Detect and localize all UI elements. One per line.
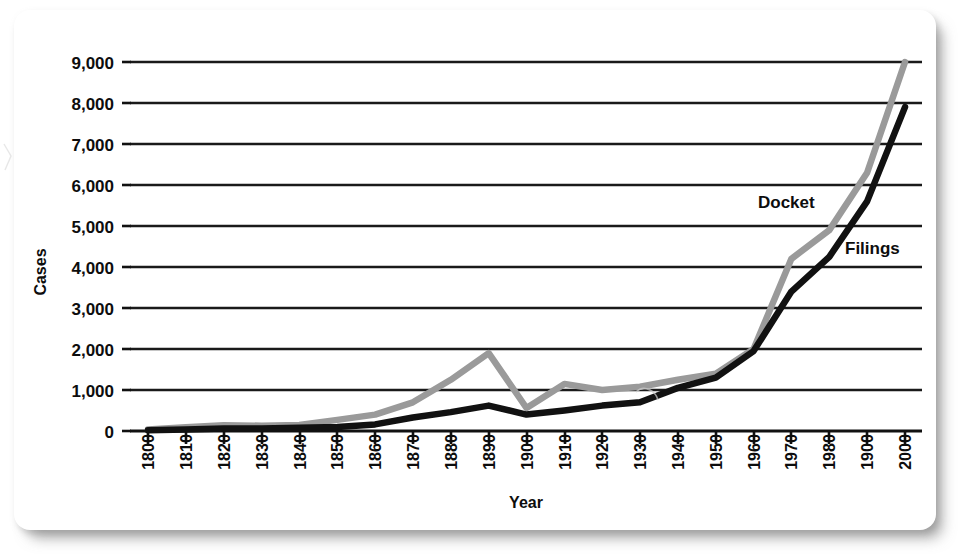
x-axis-title: Year [509, 494, 543, 511]
y-tick-label: 0 [105, 423, 114, 442]
y-axis-ticks [122, 62, 131, 431]
x-tick-label: 1880 [443, 434, 460, 470]
x-tick-label: 1940 [670, 434, 687, 470]
y-tick-label: 4,000 [71, 259, 114, 278]
x-tick-label: 1890 [481, 434, 498, 470]
y-tick-label: 7,000 [71, 136, 114, 155]
x-tick-label: 1980 [821, 434, 838, 470]
series-line-docket [148, 62, 905, 429]
x-tick-label: 1850 [329, 434, 346, 470]
x-tick-label: 1830 [254, 434, 271, 470]
x-tick-label: 1900 [859, 434, 876, 470]
x-tick-label: 1860 [367, 434, 384, 470]
x-tick-label: 1900 [519, 434, 536, 470]
x-axis-tick-labels: 1800 1810 1820 1830 1840 1850 1860 1870 … [140, 434, 914, 470]
gridlines [130, 62, 922, 390]
y-tick-label: 5,000 [71, 218, 114, 237]
series-label-filings: Filings [845, 239, 900, 258]
line-chart: 9,000 8,000 7,000 6,000 5,000 4,000 3,00… [0, 0, 968, 558]
x-tick-label: 1950 [708, 434, 725, 470]
x-tick-label: 1970 [783, 434, 800, 470]
x-tick-label: 2000 [897, 434, 914, 470]
x-tick-label: 1870 [405, 434, 422, 470]
x-tick-label: 1800 [140, 434, 157, 470]
x-tick-label: 1840 [292, 434, 309, 470]
y-tick-label: 9,000 [71, 54, 114, 73]
x-tick-label: 1920 [594, 434, 611, 470]
y-tick-label: 1,000 [71, 382, 114, 401]
x-tick-label: 1820 [216, 434, 233, 470]
series-label-docket: Docket [758, 193, 815, 212]
y-tick-label: 8,000 [71, 95, 114, 114]
x-tick-label: 1810 [178, 434, 195, 470]
series-line-filings [148, 107, 905, 430]
x-tick-label: 1910 [557, 434, 574, 470]
y-tick-label: 3,000 [71, 300, 114, 319]
x-tick-label: 1960 [746, 434, 763, 470]
y-tick-label: 2,000 [71, 341, 114, 360]
y-tick-label: 6,000 [71, 177, 114, 196]
y-axis-tick-labels: 9,000 8,000 7,000 6,000 5,000 4,000 3,00… [71, 54, 114, 442]
y-axis-title: Cases [32, 248, 49, 295]
x-tick-label: 1930 [632, 434, 649, 470]
